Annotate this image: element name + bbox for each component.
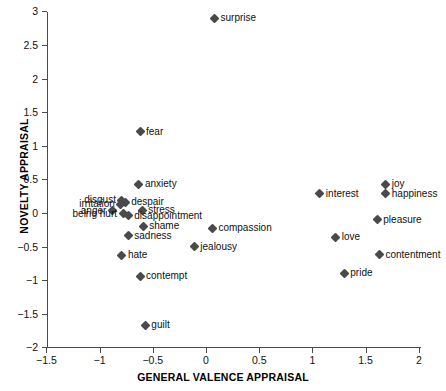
data-point-label: anxiety: [145, 179, 177, 189]
data-point-label: sadness: [134, 231, 171, 241]
diamond-marker-icon: [381, 189, 391, 199]
diamond-marker-icon: [117, 250, 127, 260]
data-point-label: contempt: [146, 271, 187, 281]
x-tick: [46, 348, 47, 353]
x-tick: [366, 348, 367, 353]
diamond-marker-icon: [123, 211, 133, 221]
y-tick-label: −1.5: [4, 309, 38, 319]
diamond-marker-icon: [135, 271, 145, 281]
diamond-marker-icon: [339, 269, 349, 279]
x-tick: [100, 348, 101, 353]
x-tick-label: 0: [186, 355, 226, 365]
data-point-label: love: [342, 232, 360, 242]
y-axis-title: NOVELTY APPRAISAL: [18, 76, 30, 276]
diamond-marker-icon: [372, 215, 382, 225]
diamond-marker-icon: [123, 231, 133, 241]
data-point-label: pride: [350, 268, 372, 278]
y-tick-label: 3: [4, 6, 38, 16]
x-tick-label: 0.5: [239, 355, 279, 365]
diamond-marker-icon: [331, 232, 341, 242]
x-tick: [259, 348, 260, 353]
x-tick-label: −1: [80, 355, 120, 365]
data-point-label: hate: [128, 250, 147, 260]
diamond-marker-icon: [140, 320, 150, 330]
data-point-label: disappointment: [134, 211, 202, 221]
data-point-label: guilt: [151, 320, 169, 330]
data-point-label: fear: [146, 127, 163, 137]
diamond-marker-icon: [381, 179, 391, 189]
x-axis-title: GENERAL VALENCE APPRAISAL: [0, 371, 446, 383]
diamond-marker-icon: [374, 250, 384, 260]
x-tick: [153, 348, 154, 353]
x-tick-label: 1.5: [346, 355, 386, 365]
x-tick-label: −0.5: [133, 355, 173, 365]
data-point-label: jealousy: [200, 242, 237, 252]
diamond-marker-icon: [315, 189, 325, 199]
data-point-label: pleasure: [383, 215, 421, 225]
scatter-plot-figure: 32.521.510.50−0.5−1−1.5−2 −1.5−1−0.500.5…: [0, 0, 446, 391]
diamond-marker-icon: [207, 224, 217, 234]
data-point-label: contentment: [385, 250, 440, 260]
x-tick: [312, 348, 313, 353]
x-tick-label: 2: [399, 355, 439, 365]
x-tick: [419, 348, 420, 353]
x-tick: [206, 348, 207, 353]
x-tick-label: −1.5: [26, 355, 66, 365]
data-point-label: compassion: [218, 223, 271, 233]
y-tick-label: 2.5: [4, 40, 38, 50]
diamond-marker-icon: [134, 179, 144, 189]
y-tick-label: −2: [4, 342, 38, 352]
diamond-marker-icon: [189, 242, 199, 252]
data-point-label: being hurt: [73, 209, 117, 219]
diamond-marker-icon: [210, 13, 220, 23]
diamond-marker-icon: [135, 127, 145, 137]
x-tick-label: 1: [292, 355, 332, 365]
data-point-label: interest: [326, 189, 359, 199]
data-point-label: surprise: [221, 13, 257, 23]
data-point-label: happiness: [392, 189, 438, 199]
y-tick-label: −1: [4, 275, 38, 285]
plot-area: surprisefearanxietyjoyhappinessinterestd…: [47, 12, 420, 347]
